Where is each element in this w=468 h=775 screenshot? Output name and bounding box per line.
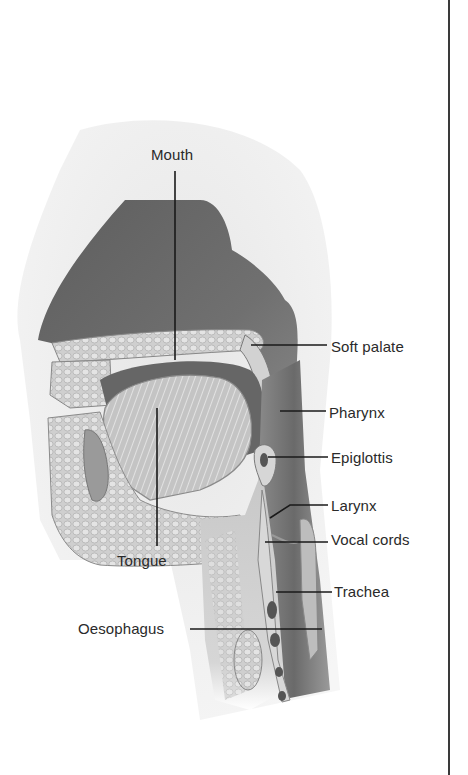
label-pharynx: Pharynx	[329, 405, 385, 420]
trachea-ring	[275, 667, 283, 677]
label-mouth: Mouth	[151, 147, 193, 162]
label-tongue: Tongue	[117, 553, 167, 568]
label-soft-palate: Soft palate	[331, 339, 404, 354]
trachea-ring	[267, 601, 277, 619]
trachea-ring	[270, 633, 280, 647]
head-neck-illustration	[0, 0, 468, 775]
label-trachea: Trachea	[334, 584, 389, 599]
label-vocal-cords: Vocal cords	[331, 532, 410, 547]
label-larynx: Larynx	[331, 498, 377, 513]
epiglottis-cavity	[260, 453, 268, 467]
trachea-ring	[278, 691, 286, 701]
label-oesophagus: Oesophagus	[78, 621, 164, 636]
label-epiglottis: Epiglottis	[331, 450, 393, 465]
thyroid-gland	[234, 630, 262, 690]
anatomy-diagram: Mouth Soft palate Pharynx Epiglottis Lar…	[0, 0, 468, 775]
page-border-rule	[448, 0, 450, 775]
